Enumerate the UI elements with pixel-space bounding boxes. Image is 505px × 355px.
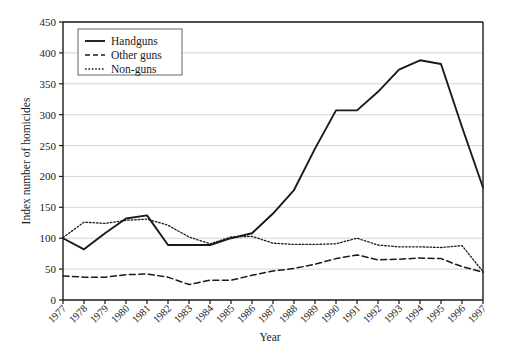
- series-line-non-guns: [63, 219, 483, 272]
- y-tick-label: 150: [40, 201, 57, 213]
- x-tick-label: 1983: [172, 303, 195, 326]
- data-series-group: [63, 60, 483, 284]
- x-tick-label: 1988: [277, 303, 300, 326]
- y-tick-label: 100: [40, 232, 57, 244]
- x-tick-label: 1978: [67, 303, 90, 326]
- y-tick-label: 50: [45, 263, 57, 275]
- x-tick-label: 1989: [298, 303, 321, 326]
- chart-container: 050100150200250300350400450 197719781979…: [0, 0, 505, 355]
- homicide-index-line-chart: 050100150200250300350400450 197719781979…: [0, 0, 505, 355]
- x-tick-label: 1984: [193, 302, 216, 325]
- x-tick-label: 1985: [214, 303, 237, 326]
- legend-label: Handguns: [111, 35, 158, 48]
- y-axis-title: Index number of homicides: [20, 97, 32, 224]
- x-tick-label: 1981: [130, 303, 153, 326]
- chart-legend: HandgunsOther gunsNon-guns: [78, 29, 182, 76]
- x-tick-label: 1996: [445, 303, 468, 326]
- x-tick-label: 1993: [382, 303, 405, 326]
- x-tick-label: 1987: [256, 303, 279, 326]
- y-tick-label: 250: [40, 140, 57, 152]
- x-axis-ticks-group: 1977197819791980198119821983198419851986…: [46, 300, 489, 325]
- x-tick-label: 1992: [361, 303, 384, 326]
- y-tick-label: 0: [51, 294, 57, 306]
- y-tick-label: 450: [40, 16, 57, 28]
- x-tick-label: 1986: [235, 303, 258, 326]
- y-tick-label: 200: [40, 170, 57, 182]
- series-line-handguns: [63, 60, 483, 249]
- x-axis-title: Year: [259, 331, 280, 343]
- y-tick-label: 350: [40, 78, 57, 90]
- x-tick-label: 1982: [151, 303, 174, 326]
- x-tick-label: 1979: [88, 303, 111, 326]
- series-line-other-guns: [63, 255, 483, 285]
- y-axis-ticks-group: 050100150200250300350400450: [40, 16, 64, 306]
- x-tick-label: 1977: [46, 303, 69, 326]
- legend-label: Other guns: [111, 49, 162, 62]
- x-tick-label: 1997: [466, 303, 489, 326]
- x-tick-label: 1990: [319, 303, 342, 326]
- x-tick-label: 1991: [340, 303, 363, 326]
- x-tick-label: 1980: [109, 303, 132, 326]
- y-tick-label: 300: [40, 109, 57, 121]
- legend-label: Non-guns: [111, 63, 157, 76]
- y-tick-label: 400: [40, 47, 57, 59]
- x-tick-label: 1995: [424, 303, 447, 326]
- x-tick-label: 1994: [403, 302, 426, 325]
